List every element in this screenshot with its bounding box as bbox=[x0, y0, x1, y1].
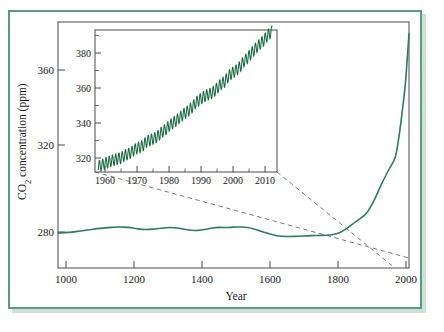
main-ytick-360: 360 bbox=[38, 64, 55, 76]
inset-xtick-1980: 1980 bbox=[159, 175, 179, 186]
main-xtick-1400: 1400 bbox=[191, 273, 214, 285]
inset-ytick-320: 320 bbox=[76, 153, 91, 164]
main-ytick-280: 280 bbox=[38, 226, 55, 238]
main-xtick-2000: 2000 bbox=[395, 273, 418, 285]
inset-xtick-1990: 1990 bbox=[191, 175, 211, 186]
inset-xtick-2010: 2010 bbox=[255, 175, 275, 186]
main-ytick-320: 320 bbox=[38, 139, 55, 151]
inset-ytick-340: 340 bbox=[76, 118, 91, 129]
inset-xtick-1960: 1960 bbox=[95, 175, 115, 186]
inset-xtick-2000: 2000 bbox=[223, 175, 243, 186]
main-xtick-1800: 1800 bbox=[327, 273, 350, 285]
main-y-axis-title: CO2 concentration (ppm) bbox=[16, 83, 33, 200]
main-xtick-1600: 1600 bbox=[259, 273, 282, 285]
inset-ytick-380: 380 bbox=[76, 48, 91, 59]
main-xtick-1000: 1000 bbox=[55, 273, 78, 285]
inset-xtick-1970: 1970 bbox=[127, 175, 147, 186]
figure-container: 360 320 280 CO2 concentration (ppm) 1000… bbox=[0, 0, 444, 332]
inset-ytick-360: 360 bbox=[76, 83, 91, 94]
main-xtick-1200: 1200 bbox=[123, 273, 146, 285]
main-x-axis-title: Year bbox=[225, 290, 246, 302]
chart-canvas: 360 320 280 CO2 concentration (ppm) 1000… bbox=[0, 0, 444, 332]
